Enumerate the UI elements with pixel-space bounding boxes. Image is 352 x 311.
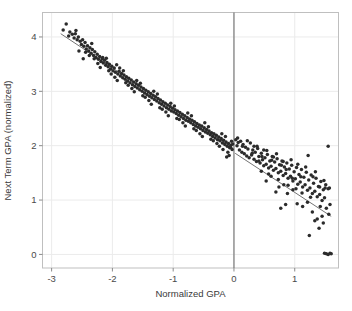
data-point <box>286 192 290 196</box>
data-point <box>263 156 267 160</box>
data-point <box>231 142 235 146</box>
data-point <box>298 180 302 184</box>
data-point <box>295 166 299 170</box>
data-point <box>218 144 222 148</box>
data-point <box>264 179 268 183</box>
data-point <box>221 148 225 152</box>
data-point <box>314 177 318 181</box>
data-point <box>300 191 304 195</box>
data-point <box>164 110 168 114</box>
data-point <box>184 124 188 128</box>
data-point <box>272 155 276 159</box>
x-axis-title: Normalized GPA <box>155 288 226 299</box>
data-point <box>152 90 156 94</box>
data-point <box>301 205 305 209</box>
data-point <box>318 185 322 189</box>
y-tick-label: 2 <box>31 140 36 151</box>
data-point <box>98 66 102 70</box>
data-point <box>282 183 286 187</box>
data-point <box>265 149 269 153</box>
data-point <box>322 221 326 225</box>
data-point <box>249 141 253 145</box>
data-point <box>269 174 273 178</box>
data-point <box>273 160 277 164</box>
data-point <box>71 32 75 36</box>
data-point <box>113 75 117 79</box>
data-point <box>246 139 250 143</box>
data-point <box>284 203 288 207</box>
data-point <box>296 162 300 166</box>
data-point <box>92 57 96 61</box>
data-point <box>90 42 94 46</box>
x-tick-label: -1 <box>169 273 177 284</box>
data-point <box>139 81 143 85</box>
data-point <box>88 54 92 58</box>
data-point <box>326 144 330 148</box>
data-point <box>292 170 296 174</box>
data-point <box>130 87 134 91</box>
data-point <box>262 148 266 152</box>
data-point <box>215 142 219 146</box>
data-point <box>84 50 88 54</box>
data-point <box>327 212 331 216</box>
data-point <box>116 79 120 83</box>
data-point <box>279 169 283 173</box>
data-point <box>274 190 278 194</box>
data-point <box>253 150 257 154</box>
data-point <box>279 206 283 210</box>
data-point <box>290 164 294 168</box>
data-point <box>246 147 250 151</box>
data-point <box>239 140 243 144</box>
data-point <box>150 103 154 107</box>
y-tick-label: 4 <box>31 31 36 42</box>
figure-background <box>0 0 352 311</box>
data-point <box>313 219 317 223</box>
data-point <box>147 99 151 103</box>
data-point <box>115 63 119 67</box>
data-point <box>308 186 312 190</box>
data-point <box>96 62 100 66</box>
data-point <box>192 127 196 131</box>
data-point <box>311 175 315 179</box>
data-point <box>322 179 326 183</box>
data-point <box>133 90 137 94</box>
data-point <box>319 205 323 209</box>
x-tick-label: -2 <box>108 273 116 284</box>
data-point <box>328 203 332 207</box>
data-point <box>295 202 299 206</box>
data-point <box>156 92 160 96</box>
data-point <box>126 84 130 88</box>
data-point <box>284 168 288 172</box>
data-point <box>257 155 261 159</box>
data-point <box>77 35 81 39</box>
data-point <box>302 175 306 179</box>
data-point <box>229 146 233 150</box>
data-point <box>107 69 111 73</box>
data-point <box>304 165 308 169</box>
data-point <box>280 164 284 168</box>
data-point <box>329 252 333 256</box>
data-point <box>260 169 264 173</box>
data-point <box>309 196 313 200</box>
data-point <box>173 104 177 108</box>
data-point <box>112 66 116 70</box>
data-point <box>158 106 162 110</box>
data-point <box>72 36 76 40</box>
data-point <box>284 172 288 176</box>
data-point <box>312 181 316 185</box>
y-tick-label: 0 <box>31 249 36 260</box>
data-point <box>93 50 97 54</box>
data-point <box>181 121 185 125</box>
data-point <box>141 94 145 98</box>
data-point <box>299 175 303 179</box>
data-point <box>64 22 68 26</box>
data-point <box>252 144 256 148</box>
data-point <box>266 153 270 157</box>
data-point <box>325 206 329 210</box>
data-point <box>224 135 228 139</box>
data-point <box>186 111 190 115</box>
data-point <box>319 180 323 184</box>
data-point <box>281 160 285 164</box>
data-point <box>257 159 261 163</box>
data-point <box>260 152 264 156</box>
